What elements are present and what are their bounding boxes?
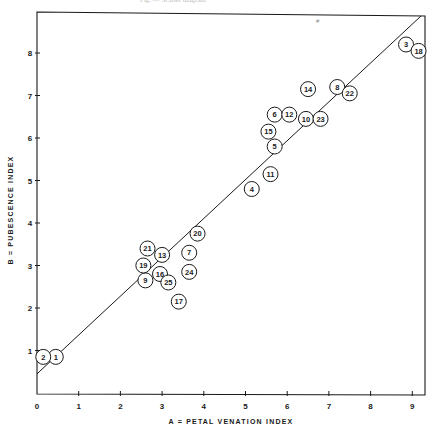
x-tick-label: 9 [410,402,415,411]
svg-text:6: 6 [273,110,277,119]
y-tick-label: 8 [28,49,33,58]
y-axis-ticks: 12345678 [28,49,40,356]
svg-text:5: 5 [273,142,277,151]
svg-text:2: 2 [41,353,45,362]
x-tick-label: 0 [35,402,40,411]
data-point-11: 11 [263,167,278,182]
svg-text:14: 14 [304,85,313,94]
svg-text:21: 21 [143,244,151,253]
data-point-12: 12 [282,107,297,122]
y-tick-label: 2 [28,304,33,313]
stray-mark: # [316,18,320,24]
regression-line [37,16,421,374]
data-point-24: 24 [182,264,197,279]
svg-text:20: 20 [193,229,201,238]
scatter-chart: # 0123456789 12345678 123456789101112131… [0,0,436,433]
x-tick-label: 1 [76,402,81,411]
data-point-22: 22 [342,86,357,101]
svg-text:3: 3 [404,40,408,49]
data-point-23: 23 [313,111,328,126]
x-tick-label: 4 [202,402,207,411]
data-point-25: 25 [161,275,176,290]
y-tick-label: 7 [28,92,33,101]
plot-frame: # [37,12,425,395]
data-point-9: 9 [138,273,153,288]
svg-text:22: 22 [346,89,354,98]
data-points: 1234567891011121314151617181920212223242… [36,37,426,364]
data-point-14: 14 [301,82,316,97]
svg-text:25: 25 [164,278,172,287]
x-tick-label: 6 [285,402,290,411]
svg-text:8: 8 [335,83,339,92]
svg-text:23: 23 [316,115,324,124]
svg-text:9: 9 [143,276,147,285]
svg-text:12: 12 [285,110,293,119]
data-point-2: 2 [36,349,51,364]
data-point-19: 19 [136,258,151,273]
svg-text:24: 24 [185,268,194,277]
y-tick-label: 6 [28,134,33,143]
data-point-17: 17 [171,294,186,309]
svg-text:17: 17 [175,297,183,306]
data-point-7: 7 [182,245,197,260]
svg-text:7: 7 [187,248,191,257]
data-point-10: 10 [298,111,313,126]
data-point-13: 13 [155,247,170,262]
y-axis-label: B = PUBESCENCE INDEX [7,156,14,265]
svg-text:18: 18 [414,47,422,56]
svg-text:11: 11 [267,170,275,179]
data-point-15: 15 [261,124,276,139]
x-axis-label: A = PETAL VENATION INDEX [169,418,294,425]
svg-text:1: 1 [54,353,58,362]
svg-text:19: 19 [139,261,147,270]
y-tick-label: 5 [28,177,33,186]
data-point-6: 6 [267,107,282,122]
x-tick-label: 5 [243,402,248,411]
x-tick-label: 8 [368,402,373,411]
y-tick-label: 3 [28,262,33,271]
y-tick-label: 4 [28,219,33,228]
svg-text:15: 15 [264,127,272,136]
data-point-21: 21 [140,241,155,256]
data-point-4: 4 [244,182,259,197]
data-point-5: 5 [267,139,282,154]
data-point-20: 20 [190,226,205,241]
y-tick-label: 1 [28,347,33,356]
x-tick-label: 7 [327,402,332,411]
svg-text:13: 13 [158,251,166,260]
svg-text:10: 10 [302,115,310,124]
x-tick-label: 3 [160,402,165,411]
data-point-18: 18 [411,43,426,58]
x-tick-label: 2 [118,402,123,411]
